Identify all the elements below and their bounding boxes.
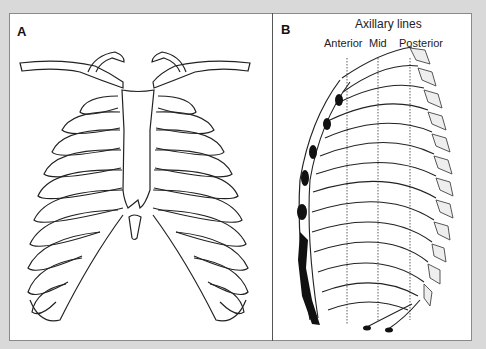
rib-cage-lateral-illustration xyxy=(297,47,453,333)
rib-cage-anterior-illustration xyxy=(0,0,486,349)
